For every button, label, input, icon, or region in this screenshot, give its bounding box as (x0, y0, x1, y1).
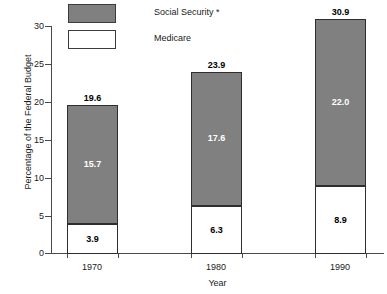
y-tick-label-5: 5 (0, 212, 44, 221)
bar-total-label-1980: 23.9 (191, 60, 242, 70)
bar-group-1970[interactable]: 19.6 15.7 3.9 (67, 0, 118, 294)
x-tick-1980-right (242, 253, 243, 258)
y-tick-25 (45, 64, 51, 65)
y-tick-30 (45, 26, 51, 27)
bar-segment-label-medicare-1980: 6.3 (191, 225, 242, 235)
bar-segment-label-medicare-1990: 8.9 (315, 215, 366, 225)
bar-segment-label-medicare-1970: 3.9 (67, 234, 118, 244)
y-tick-label-10: 10 (0, 174, 44, 183)
bar-total-label-1990: 30.9 (315, 7, 366, 17)
y-tick-5 (45, 216, 51, 217)
y-axis-title: Percentage of the Federal Budget (23, 22, 33, 222)
y-tick-15 (45, 140, 51, 141)
y-tick-label-0: 0 (0, 249, 44, 258)
y-tick-label-15: 15 (0, 136, 44, 145)
legend-label-medicare: Medicare (154, 33, 191, 44)
bar-total-label-1970: 19.6 (67, 93, 118, 103)
x-tick-1970-right (118, 253, 119, 258)
y-tick-10 (45, 178, 51, 179)
bar-segment-label-social-security-1980: 17.6 (191, 133, 242, 143)
bar-segment-label-social-security-1990: 22.0 (315, 97, 366, 107)
y-tick-0 (45, 253, 51, 254)
y-tick-20 (45, 102, 51, 103)
y-tick-label-25: 25 (0, 60, 44, 69)
y-tick-label-30: 30 (0, 22, 44, 31)
y-tick-label-20: 20 (0, 98, 44, 107)
bar-group-1980[interactable]: 23.9 17.6 6.3 (191, 0, 242, 294)
bar-group-1990[interactable]: 30.9 22.0 8.9 (315, 0, 366, 294)
x-tick-1990-right (366, 253, 367, 258)
y-axis-line (51, 26, 52, 254)
bar-segment-label-social-security-1970: 15.7 (67, 159, 118, 169)
stacked-bar-chart: Social Security * Medicare 30 25 20 15 1… (0, 0, 387, 294)
